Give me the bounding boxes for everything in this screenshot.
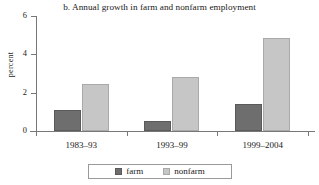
legend-label-farm: farm (126, 167, 143, 176)
bar-nonfarm (172, 77, 199, 131)
plot-area (36, 16, 308, 131)
bar-farm (144, 121, 171, 131)
y-tick-label: 0 (7, 127, 27, 135)
y-tick-label: 4 (7, 50, 27, 58)
chart-title: b. Annual growth in farm and nonfarm emp… (0, 0, 319, 13)
x-tick-label: 1999–2004 (217, 140, 308, 150)
figure: b. Annual growth in farm and nonfarm emp… (0, 0, 319, 185)
bar-nonfarm (263, 38, 290, 131)
x-tick (217, 131, 218, 136)
y-axis-title: percent (6, 39, 15, 91)
bar-farm (54, 110, 81, 131)
legend-swatch-nonfarm-icon (163, 168, 170, 175)
bar-group (36, 16, 127, 131)
legend-entry-nonfarm: nonfarm (163, 167, 205, 176)
bar-farm (235, 104, 262, 131)
x-tick (127, 131, 128, 136)
legend-swatch-farm-icon (115, 168, 122, 175)
x-tick-label: 1983–93 (36, 140, 127, 150)
x-tick (36, 131, 37, 136)
y-tick-label: 2 (7, 89, 27, 97)
x-axis-line (30, 131, 315, 132)
legend: farm nonfarm (88, 164, 232, 179)
bar-group (127, 16, 218, 131)
y-tick-label: 6 (7, 12, 27, 20)
bar-group (217, 16, 308, 131)
legend-label-nonfarm: nonfarm (174, 167, 205, 176)
bar-nonfarm (82, 84, 109, 131)
x-tick-label: 1993–99 (127, 140, 218, 150)
x-tick (308, 131, 309, 136)
legend-entry-farm: farm (115, 167, 143, 176)
